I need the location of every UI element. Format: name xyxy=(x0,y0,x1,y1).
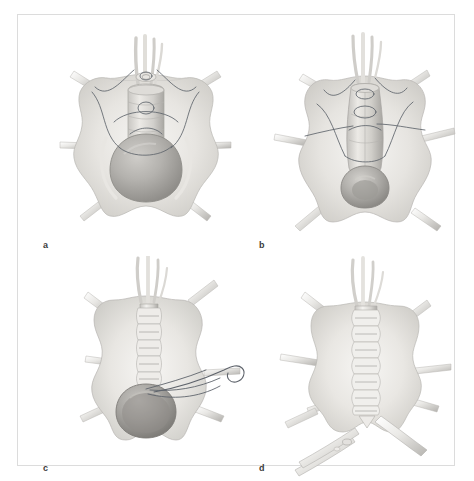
panel-a-label: a xyxy=(43,241,48,250)
panel-b-lesion xyxy=(341,166,389,208)
panel-b: b xyxy=(255,30,474,256)
panel-a: a xyxy=(36,30,255,256)
panel-c-running-suture-line xyxy=(137,304,162,385)
panel-b-closed-cord xyxy=(347,84,383,178)
panel-b-label: b xyxy=(259,241,265,250)
panel-c: c xyxy=(36,256,255,481)
panel-d-completed-closure xyxy=(352,306,381,428)
panel-d: d xyxy=(255,256,474,481)
panel-c-lesion xyxy=(116,384,176,438)
panel-a-illustration xyxy=(36,30,255,256)
panel-d-nerve-roots xyxy=(352,258,383,308)
figure-frame-border: a xyxy=(17,14,455,466)
panel-c-illustration xyxy=(36,256,255,481)
panel-d-illustration xyxy=(255,256,474,481)
panel-d-surgical-forceps xyxy=(295,416,427,476)
panel-b-illustration xyxy=(255,30,474,256)
panel-c-label: c xyxy=(43,464,48,473)
panel-d-label: d xyxy=(259,464,265,473)
forceps-hinge xyxy=(343,439,352,445)
panel-b-nerve-roots xyxy=(353,34,381,82)
figure-plate: a xyxy=(0,0,474,481)
